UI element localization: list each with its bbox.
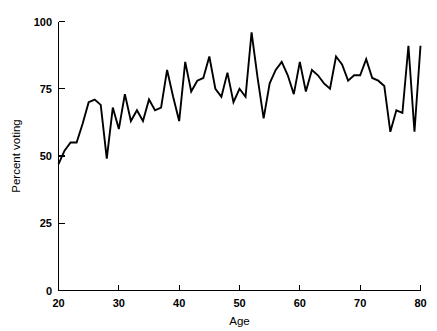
- line-chart-plot: 0 25 50 75 100 20 30 40 50 60 70 80 Age …: [0, 0, 437, 331]
- y-axis-title: Percent voting: [10, 119, 22, 193]
- y-tick-labels: 0 25 50 75 100: [34, 16, 52, 297]
- x-tick-label-80: 80: [414, 297, 426, 309]
- y-tick-label-50: 50: [40, 150, 52, 162]
- x-tick-label-60: 60: [294, 297, 306, 309]
- x-tick-marks: [59, 285, 421, 291]
- x-tick-label-30: 30: [113, 297, 125, 309]
- x-tick-label-40: 40: [173, 297, 185, 309]
- x-tick-labels: 20 30 40 50 60 70 80: [52, 297, 426, 309]
- x-tick-label-70: 70: [354, 297, 366, 309]
- y-tick-label-25: 25: [40, 217, 52, 229]
- x-tick-label-50: 50: [233, 297, 245, 309]
- data-series-line: [59, 32, 421, 164]
- y-tick-label-75: 75: [40, 83, 52, 95]
- chart-figure: 0 25 50 75 100 20 30 40 50 60 70 80 Age …: [0, 0, 437, 331]
- x-tick-label-20: 20: [52, 297, 64, 309]
- y-tick-label-0: 0: [46, 285, 52, 297]
- y-tick-label-100: 100: [34, 16, 52, 28]
- x-axis-title: Age: [229, 315, 249, 327]
